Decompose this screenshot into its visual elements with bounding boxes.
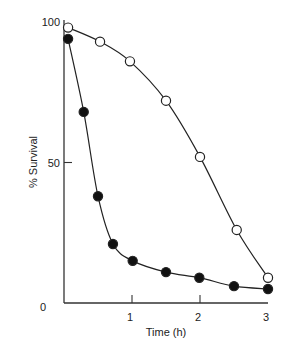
filled-circle-marker [161, 267, 170, 276]
survival-chart: 123050100 % Survival Time (h) [0, 0, 291, 359]
x-tick-label: 1 [127, 311, 133, 323]
axes: 123050100 [40, 16, 269, 323]
filled-circle-marker [263, 284, 272, 293]
open-circle-marker [63, 23, 72, 32]
open-circle-marker [95, 37, 104, 46]
filled-circle-marker [128, 256, 137, 265]
filled-circle-marker [63, 34, 72, 43]
open-circle-marker [161, 96, 170, 105]
filled-circle-marker [93, 192, 102, 201]
filled-circle-marker [79, 107, 88, 116]
curves [68, 28, 268, 289]
open-circle-marker [195, 152, 204, 161]
filled-circle-marker [108, 239, 117, 248]
open-circle-marker [125, 57, 134, 66]
markers [63, 23, 272, 294]
y-tick-label: 100 [42, 16, 60, 28]
x-tick-label: 3 [263, 311, 269, 323]
y-tick-label: 50 [48, 157, 60, 169]
open-circle-marker [232, 225, 241, 234]
x-tick-label: 2 [195, 311, 201, 323]
filled-circles-curve [68, 39, 268, 289]
filled-circle-marker [195, 273, 204, 282]
open-circle-marker [263, 273, 272, 282]
y-tick-label: 0 [40, 301, 46, 313]
y-axis-label: % Survival [27, 136, 39, 188]
open-circles-curve [68, 28, 268, 278]
x-axis-label: Time (h) [146, 326, 187, 338]
filled-circle-marker [229, 282, 238, 291]
